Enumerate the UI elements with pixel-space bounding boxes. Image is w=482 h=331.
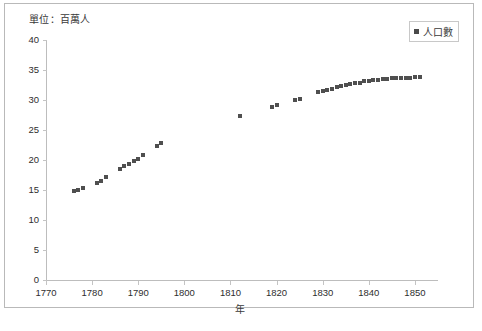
chart-frame: 單位：百萬人 人口數 0510152025303540 177017801790… — [4, 3, 474, 308]
scatter-point — [413, 75, 417, 79]
scatter-point — [339, 84, 343, 88]
scatter-point — [72, 189, 76, 193]
scatter-point — [353, 81, 357, 85]
scatter-point — [408, 76, 412, 80]
scatter-point — [95, 181, 99, 185]
scatter-point — [394, 76, 398, 80]
scatter-point — [99, 179, 103, 183]
scatter-point — [399, 76, 403, 80]
scatter-point — [344, 83, 348, 87]
scatter-point — [104, 175, 108, 179]
scatter-point — [376, 78, 380, 82]
scatter-point — [293, 98, 297, 102]
scatter-point — [76, 188, 80, 192]
scatter-point — [127, 162, 131, 166]
scatter-point — [335, 85, 339, 89]
scatter-point — [381, 77, 385, 81]
x-axis-title: 年 — [5, 301, 475, 316]
scatter-point — [270, 105, 274, 109]
scatter-point — [275, 103, 279, 107]
scatter-point — [132, 159, 136, 163]
scatter-point — [81, 186, 85, 190]
scatter-point — [141, 153, 145, 157]
scatter-point — [418, 75, 422, 79]
scatter-point — [118, 167, 122, 171]
scatter-point — [367, 79, 371, 83]
scatter-point — [362, 79, 366, 83]
scatter-point — [330, 87, 334, 91]
scatter-point — [348, 82, 352, 86]
scatter-point — [321, 89, 325, 93]
scatter-point — [371, 78, 375, 82]
scatter-point — [316, 90, 320, 94]
scatter-point — [390, 76, 394, 80]
scatter-point — [325, 88, 329, 92]
scatter-point — [159, 141, 163, 145]
scatter-point — [404, 76, 408, 80]
scatter-point — [136, 157, 140, 161]
scatter-point — [155, 144, 159, 148]
scatter-point — [298, 97, 302, 101]
scatter-points-layer — [5, 4, 475, 309]
scatter-point — [122, 164, 126, 168]
scatter-point — [385, 77, 389, 81]
scatter-point — [238, 114, 242, 118]
scatter-point — [358, 81, 362, 85]
